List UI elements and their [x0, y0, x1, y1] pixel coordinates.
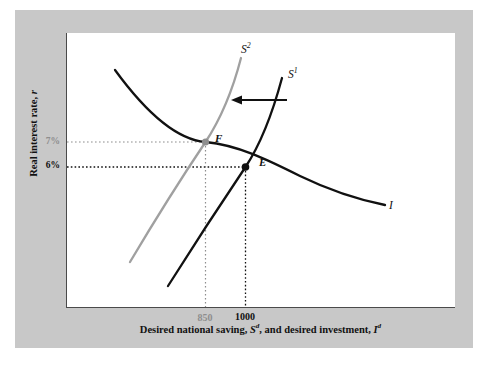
curve-investment-i [115, 70, 385, 205]
equilibrium-point-f [202, 138, 209, 145]
chart-graphics [0, 0, 489, 365]
economics-figure: Real interest rate, r Desired national s… [0, 0, 489, 365]
curve-saving-s1 [168, 78, 282, 286]
shift-arrow-icon [231, 95, 287, 104]
equilibrium-point-e [242, 163, 250, 171]
curve-saving-s2 [130, 58, 241, 262]
